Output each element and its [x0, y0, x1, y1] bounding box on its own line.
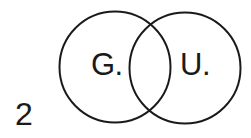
set-label-u: U. [180, 49, 210, 80]
venn-figure: G. U. 2 [0, 0, 251, 138]
venn-diagram [0, 0, 251, 138]
set-label-g: G. [91, 49, 123, 80]
figure-number: 2 [15, 98, 33, 130]
